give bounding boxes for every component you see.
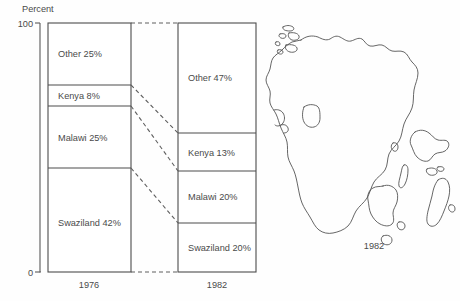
bar-1976[interactable]: Other 25% Kenya 8% Malawi 25% Swaziland … [48, 23, 131, 272]
bar-1982-segment-label-swaziland: Swaziland 20% [188, 243, 251, 253]
bar-1976-segment-label-malawi: Malawi 25% [58, 133, 108, 143]
y-axis-line [40, 23, 41, 272]
africa-map: 1982 [266, 26, 455, 252]
bar-1976-segment-label-other: Other 25% [58, 49, 102, 59]
bar-1982-segment-label-malawi: Malawi 20% [188, 192, 238, 202]
nigeria-border [303, 105, 321, 128]
southern-country-border [368, 185, 398, 226]
connector-malawi-swaziland [131, 168, 178, 223]
axis-title-percent: Percent [22, 4, 54, 14]
northwest-island-1 [283, 26, 294, 32]
figure-canvas: Percent 100 0 Other 25% Kenya 8% Malawi … [0, 0, 460, 301]
swaziland-border [397, 222, 405, 230]
category-label-1982: 1982 [207, 280, 227, 290]
kenya-border [410, 130, 449, 161]
bar-1982[interactable]: Other 47% Kenya 13% Malawi 20% Swaziland… [178, 23, 256, 272]
madagascar-outline [427, 178, 450, 226]
northwest-island-3 [288, 33, 299, 41]
comoros-island-1 [426, 168, 437, 175]
northwest-island-2 [279, 34, 286, 39]
bar-1982-segment-label-kenya: Kenya 13% [188, 148, 235, 158]
stacked-bar-with-africa-map: Percent 100 0 Other 25% Kenya 8% Malawi … [0, 0, 460, 301]
bar-1976-segment-label-swaziland: Swaziland 42% [58, 218, 121, 228]
malawi-border [399, 165, 408, 188]
category-label-1976: 1976 [79, 280, 99, 290]
y-tick-label-100: 100 [18, 19, 33, 29]
y-tick-label-0: 0 [28, 268, 33, 278]
connector-other-kenya [131, 85, 178, 133]
bar-1976-outline [48, 23, 131, 272]
west-coast-country-border [281, 125, 288, 133]
connector-kenya-malawi [131, 106, 178, 171]
bar-1982-segment-label-other: Other 47% [188, 73, 232, 83]
bar-1976-segment-label-kenya: Kenya 8% [58, 91, 100, 101]
comoros-island-2 [437, 167, 444, 172]
africa-mainland-outline [266, 36, 418, 233]
northwest-island-4 [275, 42, 280, 46]
map-year-label: 1982 [364, 241, 384, 251]
mauritius-island [449, 205, 456, 212]
segment-connectors [131, 85, 178, 223]
